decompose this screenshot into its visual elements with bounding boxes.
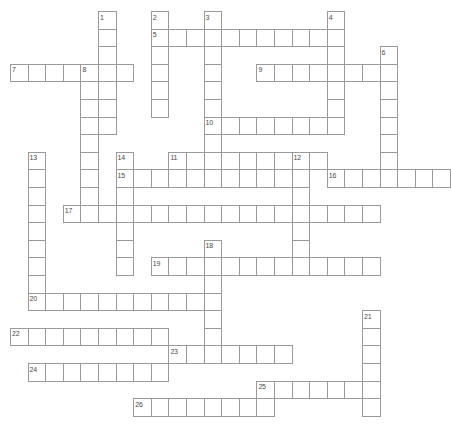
crossword-cell[interactable] — [28, 293, 47, 312]
crossword-cell[interactable] — [116, 240, 135, 259]
crossword-cell[interactable] — [28, 64, 47, 83]
crossword-cell[interactable] — [80, 99, 99, 118]
crossword-cell[interactable] — [168, 345, 187, 364]
crossword-cell[interactable] — [80, 81, 99, 100]
crossword-cell[interactable] — [204, 205, 223, 224]
crossword-cell[interactable] — [204, 293, 223, 312]
crossword-cell[interactable] — [256, 381, 275, 400]
crossword-cell[interactable] — [362, 328, 381, 347]
crossword-cell[interactable] — [380, 99, 399, 118]
crossword-cell[interactable] — [204, 81, 223, 100]
crossword-cell[interactable] — [98, 363, 117, 382]
crossword-cell[interactable] — [151, 205, 170, 224]
crossword-cell[interactable] — [186, 398, 205, 417]
crossword-cell[interactable] — [327, 381, 346, 400]
crossword-cell[interactable] — [327, 81, 346, 100]
crossword-cell[interactable] — [274, 117, 293, 136]
crossword-cell[interactable] — [239, 169, 258, 188]
crossword-cell[interactable] — [256, 257, 275, 276]
crossword-cell[interactable] — [344, 381, 363, 400]
crossword-cell[interactable] — [309, 64, 328, 83]
crossword-cell[interactable] — [256, 29, 275, 48]
crossword-cell[interactable] — [221, 257, 240, 276]
crossword-cell[interactable] — [204, 134, 223, 153]
crossword-cell[interactable] — [98, 81, 117, 100]
crossword-cell[interactable] — [98, 11, 117, 30]
crossword-cell[interactable] — [186, 257, 205, 276]
crossword-cell[interactable] — [432, 169, 451, 188]
crossword-cell[interactable] — [204, 398, 223, 417]
crossword-cell[interactable] — [327, 64, 346, 83]
crossword-cell[interactable] — [204, 99, 223, 118]
crossword-cell[interactable] — [204, 152, 223, 171]
crossword-cell[interactable] — [292, 240, 311, 259]
crossword-cell[interactable] — [116, 293, 135, 312]
crossword-cell[interactable] — [204, 257, 223, 276]
crossword-cell[interactable] — [256, 345, 275, 364]
crossword-cell[interactable] — [380, 81, 399, 100]
crossword-cell[interactable] — [133, 205, 152, 224]
crossword-cell[interactable] — [380, 64, 399, 83]
crossword-cell[interactable] — [221, 169, 240, 188]
crossword-cell[interactable] — [309, 117, 328, 136]
crossword-cell[interactable] — [274, 152, 293, 171]
crossword-cell[interactable] — [344, 205, 363, 224]
crossword-cell[interactable] — [133, 398, 152, 417]
crossword-cell[interactable] — [274, 169, 293, 188]
crossword-cell[interactable] — [204, 117, 223, 136]
crossword-cell[interactable] — [344, 257, 363, 276]
crossword-cell[interactable] — [380, 152, 399, 171]
crossword-cell[interactable] — [292, 381, 311, 400]
crossword-cell[interactable] — [204, 240, 223, 259]
crossword-cell[interactable] — [327, 46, 346, 65]
crossword-cell[interactable] — [168, 169, 187, 188]
crossword-cell[interactable] — [45, 293, 64, 312]
crossword-cell[interactable] — [239, 152, 258, 171]
crossword-cell[interactable] — [256, 205, 275, 224]
crossword-cell[interactable] — [274, 64, 293, 83]
crossword-cell[interactable] — [274, 345, 293, 364]
crossword-cell[interactable] — [327, 205, 346, 224]
crossword-cell[interactable] — [256, 64, 275, 83]
crossword-cell[interactable] — [380, 117, 399, 136]
crossword-cell[interactable] — [45, 363, 64, 382]
crossword-cell[interactable] — [116, 205, 135, 224]
crossword-cell[interactable] — [344, 169, 363, 188]
crossword-cell[interactable] — [362, 398, 381, 417]
crossword-cell[interactable] — [98, 64, 117, 83]
crossword-cell[interactable] — [80, 134, 99, 153]
crossword-cell[interactable] — [168, 257, 187, 276]
crossword-cell[interactable] — [133, 328, 152, 347]
crossword-cell[interactable] — [397, 169, 416, 188]
crossword-cell[interactable] — [292, 29, 311, 48]
crossword-cell[interactable] — [221, 398, 240, 417]
crossword-cell[interactable] — [168, 152, 187, 171]
crossword-cell[interactable] — [362, 205, 381, 224]
crossword-cell[interactable] — [45, 64, 64, 83]
crossword-cell[interactable] — [28, 205, 47, 224]
crossword-cell[interactable] — [380, 169, 399, 188]
crossword-cell[interactable] — [28, 257, 47, 276]
crossword-cell[interactable] — [362, 381, 381, 400]
crossword-cell[interactable] — [116, 152, 135, 171]
crossword-cell[interactable] — [168, 205, 187, 224]
crossword-cell[interactable] — [98, 205, 117, 224]
crossword-cell[interactable] — [292, 187, 311, 206]
crossword-cell[interactable] — [256, 152, 275, 171]
crossword-cell[interactable] — [80, 363, 99, 382]
crossword-cell[interactable] — [151, 81, 170, 100]
crossword-cell[interactable] — [309, 381, 328, 400]
crossword-cell[interactable] — [239, 117, 258, 136]
crossword-cell[interactable] — [63, 205, 82, 224]
crossword-cell[interactable] — [151, 46, 170, 65]
crossword-cell[interactable] — [186, 345, 205, 364]
crossword-cell[interactable] — [309, 152, 328, 171]
crossword-cell[interactable] — [28, 187, 47, 206]
crossword-cell[interactable] — [80, 169, 99, 188]
crossword-cell[interactable] — [256, 117, 275, 136]
crossword-cell[interactable] — [98, 328, 117, 347]
crossword-cell[interactable] — [151, 257, 170, 276]
crossword-cell[interactable] — [28, 169, 47, 188]
crossword-cell[interactable] — [168, 398, 187, 417]
